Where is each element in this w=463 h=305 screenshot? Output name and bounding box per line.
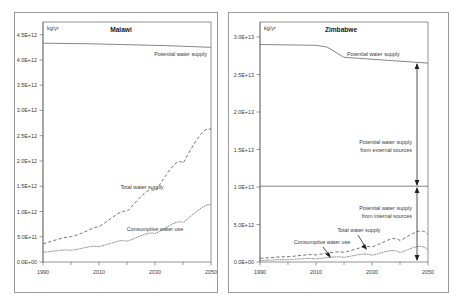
malawi-x-ticks [43,262,211,266]
y-tick-label: 3.5E+12 [17,82,37,88]
x-tick-label: 1990 [37,269,49,275]
y-tick-label: 1.0E+12 [17,209,37,215]
figure-root: 0.0E+00 5.0E+11 1.0E+12 1.5E+12 2.0E+12 … [0,0,463,305]
y-tick-label: 3.0E+13 [234,34,254,40]
zimbabwe-series-consumptive-water-use [260,246,428,260]
y-tick-label: 2.5E+13 [234,72,254,78]
zimbabwe-y-tick-labels: 0.0E+00 5.0E+12 1.0E+13 1.5E+13 2.0E+13 … [234,34,254,265]
malawi-y-axis-unit: kg/yr [47,25,59,31]
malawi-x-tick-labels: 1990 2010 2030 2050 [37,269,217,275]
zimbabwe-label-consumptive-water-use: Consumptive water use [294,239,350,245]
zimbabwe-annotation-internal-arrow [415,187,420,261]
y-tick-label: 5.0E+12 [234,222,254,228]
malawi-label-potential-water-supply: Potential water supply [154,51,207,57]
malawi-label-consumptive-water-use: Consumptive water use [127,226,183,232]
chart-panel-zimbabwe: 0.0E+00 5.0E+12 1.0E+13 1.5E+13 2.0E+13 … [228,12,449,293]
malawi-y-tick-labels: 0.0E+00 5.0E+11 1.0E+12 1.5E+12 2.0E+12 … [17,32,37,265]
zimbabwe-label-potential-water-supply: Potential water supply [347,51,400,57]
zimbabwe-series-potential-water-supply [260,45,428,64]
x-tick-label: 2030 [149,269,161,275]
y-tick-label: 1.5E+12 [17,183,37,189]
y-tick-label: 5.0E+11 [17,234,37,240]
chart-panel-malawi: 0.0E+00 5.0E+11 1.0E+12 1.5E+12 2.0E+12 … [14,12,218,293]
y-tick-label: 0.0E+00 [17,259,37,265]
malawi-series-potential-water-supply [43,43,211,47]
zimbabwe-canvas: 0.0E+00 5.0E+12 1.0E+13 1.5E+13 2.0E+13 … [229,13,448,292]
x-tick-label: 2010 [310,269,322,275]
y-tick-label: 1.5E+13 [234,147,254,153]
zimbabwe-y-axis-unit: kg/yr [264,25,276,31]
zimbabwe-y-ticks [257,37,261,262]
y-tick-label: 2.0E+12 [17,158,37,164]
malawi-label-total-water-supply: Total water supply [120,184,163,190]
y-tick-label: 1.0E+13 [234,184,254,190]
y-tick-label: 2.5E+12 [17,133,37,139]
y-tick-label: 4.0E+12 [17,57,37,63]
malawi-canvas: 0.0E+00 5.0E+11 1.0E+12 1.5E+12 2.0E+12 … [15,13,217,292]
y-tick-label: 3.0E+12 [17,107,37,113]
zimbabwe-label-internal-line2: from internal sources [362,213,413,219]
y-tick-label: 4.5E+12 [17,32,37,38]
zimbabwe-chart-title: Zimbabwe [325,26,358,33]
zimbabwe-x-ticks [260,262,428,266]
x-tick-label: 1990 [254,269,266,275]
x-tick-label: 2030 [366,269,378,275]
zimbabwe-annotation-external-arrow [415,63,420,186]
malawi-chart-title: Malawi [110,26,132,33]
zimbabwe-label-external-line2: from external sources [360,147,412,153]
zimbabwe-x-tick-labels: 1990 2010 2030 2050 [254,269,434,275]
zimbabwe-label-internal-line1: Potential water supply [359,205,412,211]
y-tick-label: 0.0E+00 [234,259,254,265]
zimbabwe-consumptive-pointer-arrow [323,247,331,258]
zimbabwe-label-total-water-supply: Total water supply [337,227,380,233]
x-tick-label: 2050 [422,269,434,275]
x-tick-label: 2010 [93,269,105,275]
y-tick-label: 2.0E+13 [234,109,254,115]
zimbabwe-label-external-line1: Potential water supply [359,139,412,145]
malawi-y-ticks [40,35,44,262]
x-tick-label: 2050 [205,269,217,275]
